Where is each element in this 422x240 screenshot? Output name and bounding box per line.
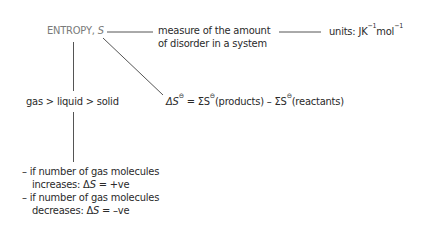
- gas-molecule-rules: – if number of gas molecules increases: …: [22, 165, 159, 217]
- definition-line-2: of disorder in a system: [158, 37, 270, 50]
- entropy-title: ENTROPY, S: [47, 24, 104, 37]
- entropy-change-equation: ΔS⊖ = ΣS⊖(products) – ΣS⊖(reactants): [166, 95, 344, 108]
- definition-line-1: measure of the amount: [158, 24, 270, 37]
- entropy-label: ENTROPY,: [47, 24, 98, 37]
- standard-state-symbol: ⊖: [179, 92, 184, 100]
- rule-increase-suffix: = +ve: [96, 178, 130, 191]
- definition-text: measure of the amount of disorder in a s…: [158, 24, 270, 50]
- rule-increase-line-2: increases: ΔS = +ve: [22, 178, 159, 191]
- rule-increase-prefix: increases: Δ: [32, 178, 90, 191]
- rule-decrease-prefix: decreases: Δ: [32, 204, 93, 217]
- standard-state-symbol: ⊖: [210, 92, 215, 100]
- rule-decrease-suffix: = –ve: [99, 204, 129, 217]
- states-ordering: gas > liquid > solid: [26, 95, 119, 108]
- units-mol-exponent: −1: [394, 22, 403, 30]
- rule-decrease-line-1: – if number of gas molecules: [22, 191, 159, 204]
- connector-entropy-to-equation: [103, 38, 163, 95]
- entropy-symbol: S: [98, 24, 104, 37]
- equation-sum-products: = ΣS: [184, 95, 210, 108]
- rule-increase-line-1: – if number of gas molecules: [22, 165, 159, 178]
- units-k-exponent: −1: [367, 22, 376, 30]
- equation-delta-s: ΔS: [166, 95, 179, 108]
- rule-decrease-line-2: decreases: ΔS = –ve: [22, 204, 159, 217]
- equation-products: (products) – ΣS: [215, 95, 287, 108]
- standard-state-symbol: ⊖: [287, 92, 292, 100]
- units-mol: mol: [376, 25, 394, 38]
- units-prefix: units: J: [329, 25, 361, 38]
- equation-reactants: (reactants): [292, 95, 344, 108]
- units-text: units: JK−1mol−1: [329, 25, 403, 38]
